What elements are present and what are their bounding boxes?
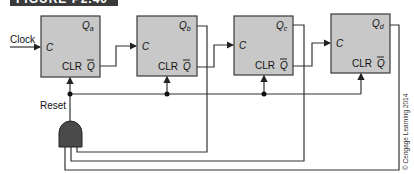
flipflop-c: C Qc CLR Q <box>234 16 293 75</box>
flipflop-c-clr-pin: CLR <box>255 60 275 71</box>
wire-qbar-c-to-clock-d <box>293 43 330 66</box>
flipflop-a-qbar-label: Q <box>87 61 95 72</box>
flipflop-c-qbar-label: Q <box>280 60 288 71</box>
flipflop-b-clock-pin: C <box>142 41 150 52</box>
flipflop-d: C Qd CLR Q <box>331 14 390 73</box>
flipflop-b-qbar-label: Q <box>183 61 191 72</box>
wire-qbar-b-to-clock-c <box>197 45 233 67</box>
counter-circuit-diagram: Clock C Qa CLR Q C Qb CLR Q C Qc CLR Q C… <box>0 0 414 174</box>
flipflop-d-clr-pin: CLR <box>352 58 372 69</box>
junction-dot <box>68 92 73 97</box>
junction-dot <box>262 92 267 97</box>
and-gate <box>59 121 82 147</box>
flipflop-c-clock-pin: C <box>239 40 247 51</box>
flipflop-a-clock-pin: C <box>46 42 54 53</box>
flipflop-a: C Qa CLR Q <box>41 16 100 77</box>
flipflop-d-clock-pin: C <box>336 38 344 49</box>
flipflop-b-clr-pin: CLR <box>158 61 178 72</box>
flipflop-a-clr-pin: CLR <box>62 61 82 72</box>
junction-dot <box>165 92 170 97</box>
flipflop-b: C Qb CLR Q <box>137 16 197 76</box>
reset-label: Reset <box>40 100 66 111</box>
flipflop-d-qbar-label: Q <box>377 58 385 69</box>
copyright-credit: © Cengage Learning 2014 <box>402 94 409 170</box>
clock-label: Clock <box>10 34 36 45</box>
wire-qbar-a-to-clock-b <box>100 46 136 66</box>
